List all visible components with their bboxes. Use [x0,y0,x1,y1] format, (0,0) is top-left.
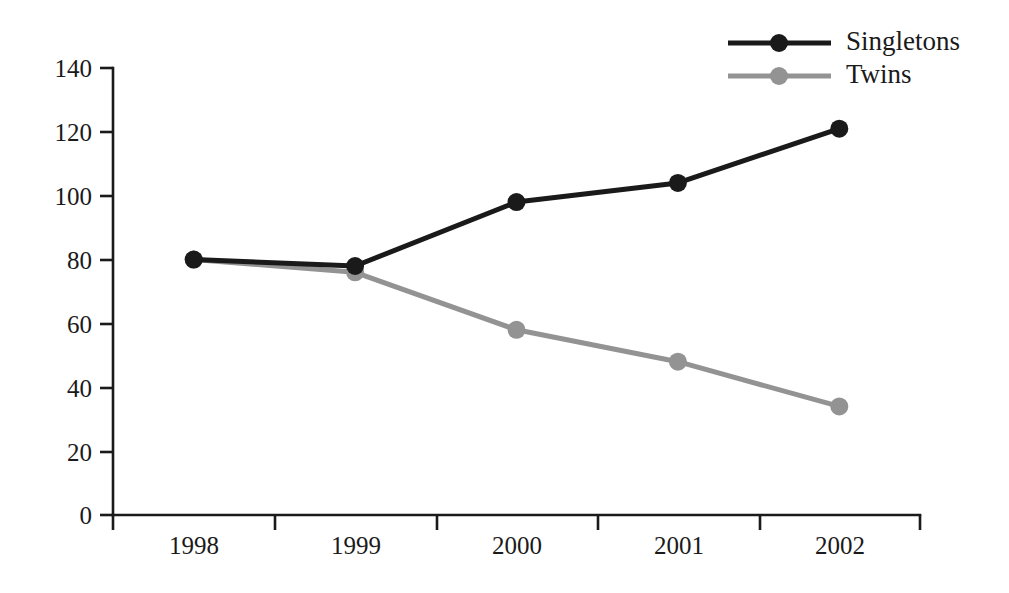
data-point-twins-2001 [669,353,687,371]
y-axis-tick-labels: 140 120 100 80 60 40 20 0 [55,55,93,529]
y-axis-ticks [100,68,113,515]
data-point-singletons-2002 [830,120,848,138]
data-series-layer [185,120,849,416]
y-tick-label-100: 100 [55,183,93,210]
y-tick-label-40: 40 [67,375,92,402]
y-tick-label-80: 80 [67,247,92,274]
data-point-singletons-1999 [346,257,364,275]
data-point-singletons-2001 [669,174,687,192]
chart-canvas: 140 120 100 80 60 40 20 0 1998 1999 2000… [0,0,1009,593]
x-tick-label-2002: 2002 [815,532,865,559]
y-tick-label-20: 20 [67,439,92,466]
legend-label-twins: Twins [846,59,912,89]
x-tick-label-2000: 2000 [492,532,542,559]
data-point-twins-2000 [508,321,526,339]
legend-swatch-marker-twins [770,67,788,85]
y-tick-label-140: 140 [55,55,93,82]
series-singletons [185,120,849,275]
chart-legend: Singletons Twins [728,26,960,89]
legend-label-singletons: Singletons [846,26,960,56]
x-tick-label-2001: 2001 [654,532,704,559]
y-tick-label-0: 0 [80,502,93,529]
data-point-singletons-1998 [185,251,203,269]
x-tick-label-1999: 1999 [331,532,381,559]
series-twins [185,251,849,416]
data-point-singletons-2000 [508,193,526,211]
x-axis-tick-labels: 1998 1999 2000 2001 2002 [169,532,865,559]
legend-swatch-marker-singletons [770,34,788,52]
line-chart: 140 120 100 80 60 40 20 0 1998 1999 2000… [0,0,1009,593]
y-tick-label-60: 60 [67,311,92,338]
data-point-twins-2002 [830,397,848,415]
x-axis-ticks [113,515,920,530]
y-tick-label-120: 120 [55,119,93,146]
x-tick-label-1998: 1998 [169,532,219,559]
